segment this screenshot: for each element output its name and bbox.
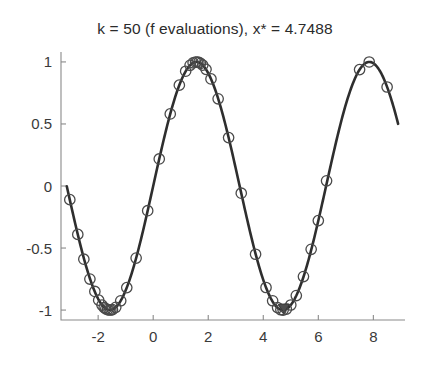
y-tick-label: 1 [44, 53, 52, 70]
x-tick-label: 8 [369, 328, 377, 345]
axis-spines [61, 52, 405, 320]
y-axis-ticks: -1-0.500.51 [26, 53, 66, 318]
x-tick-label: 6 [314, 328, 322, 345]
plot-area: -202468 -1-0.500.51 [0, 0, 430, 373]
y-tick-label: 0.5 [31, 115, 52, 132]
y-tick-label: -0.5 [26, 240, 52, 257]
x-tick-label: 2 [204, 328, 212, 345]
x-tick-label: 0 [149, 328, 157, 345]
axes [61, 52, 405, 320]
x-tick-label: 4 [259, 328, 267, 345]
x-tick-label: -2 [91, 328, 104, 345]
y-tick-label: 0 [44, 178, 52, 195]
data-curve [67, 62, 398, 310]
evaluation-markers [65, 57, 393, 315]
figure-container: k = 50 (f evaluations), x* = 4.7488 -202… [0, 0, 430, 373]
objective-curve [67, 62, 398, 310]
y-tick-label: -1 [39, 302, 52, 319]
